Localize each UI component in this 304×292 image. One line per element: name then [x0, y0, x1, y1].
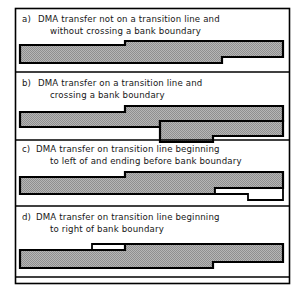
panel-a-caption-line1: DMA transfer not on a transition line an…: [38, 14, 220, 24]
panel-d-caption-line2: to right of bank boundary: [50, 224, 164, 234]
panel-c-caption-line2: to left of and ending before bank bounda…: [50, 156, 242, 166]
panel-a-label: a): [22, 14, 31, 24]
panel-b-label: b): [22, 78, 31, 88]
panel-b-caption-line2: crossing a bank boundary: [50, 90, 165, 100]
panel-d-caption-line1: DMA transfer on transition line beginnin…: [36, 212, 220, 222]
panel-c-label: c): [22, 144, 30, 154]
panel-b-caption-line1: DMA transfer on a transition line and: [38, 78, 202, 88]
panel-d-label: d): [22, 212, 31, 222]
panel-a-caption-line2: without crossing a bank boundary: [50, 26, 201, 36]
panel-c-caption-line1: DMA transfer on transition line beginnin…: [36, 144, 220, 154]
dma-transfer-diagram: a) DMA transfer not on a transition line…: [0, 0, 304, 292]
